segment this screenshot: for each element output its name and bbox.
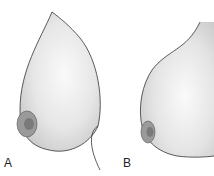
illustration-b: [107, 0, 214, 176]
illustration-a: [0, 0, 107, 176]
panel-b: B: [107, 0, 214, 176]
panel-label-b: B: [123, 156, 131, 170]
panel-label-a: A: [4, 156, 12, 170]
panel-a: A: [0, 0, 107, 176]
